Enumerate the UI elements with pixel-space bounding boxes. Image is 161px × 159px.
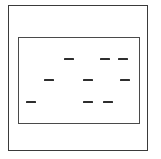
dash-top-2 (100, 58, 110, 60)
dash-top-1 (64, 58, 74, 60)
dash-mid-1 (44, 79, 54, 81)
dash-mid-3 (120, 79, 130, 81)
drawing-canvas (0, 0, 161, 159)
dash-top-3 (118, 58, 128, 60)
dash-mid-2 (83, 79, 93, 81)
